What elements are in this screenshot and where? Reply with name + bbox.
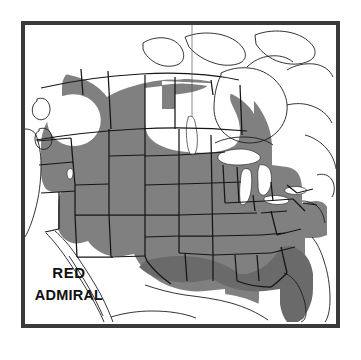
great-salt-lake bbox=[67, 169, 73, 179]
great-lakes-superior bbox=[218, 149, 260, 165]
great-lakes-ontario bbox=[285, 187, 307, 195]
absent-area-british-columbia bbox=[47, 94, 101, 146]
range-map-figure: RED ADMIRAL bbox=[0, 0, 361, 360]
north-america-map bbox=[25, 25, 336, 324]
map-frame bbox=[21, 21, 340, 328]
absent-area-prairie-notch bbox=[145, 86, 162, 111]
